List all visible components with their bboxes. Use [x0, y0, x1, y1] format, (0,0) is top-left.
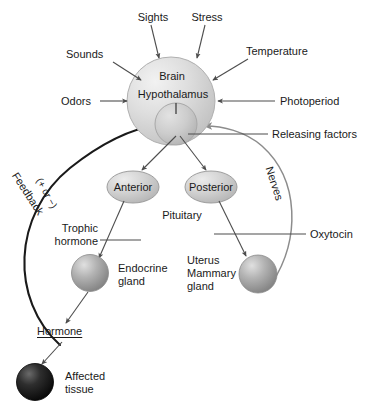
label-target-line2: Mammary [187, 267, 236, 280]
label-anterior: Anterior [104, 181, 162, 194]
label-endocrine-gland-line1: Endocrine [118, 262, 168, 275]
hormone-arrow [66, 292, 88, 323]
stress-arrow [197, 25, 205, 58]
hypothalamus-pituitary-diagram: Sights Stress Sounds Temperature Odors P… [0, 0, 367, 414]
label-temperature: Temperature [246, 45, 308, 58]
label-trophic-hormone-line2: hormone [34, 235, 98, 248]
temperature-arrow [213, 59, 248, 80]
affected-tissue-sphere [17, 364, 54, 401]
label-affected-tissue-line2: tissue [65, 383, 94, 396]
trophic-hormone-arrow [99, 201, 124, 258]
affected-tissue-arrow [42, 342, 62, 364]
posterior-arrow [180, 136, 206, 170]
label-target-line3: gland [187, 280, 214, 293]
uterus-mammary-gland-sphere [239, 255, 277, 293]
label-affected-tissue-line1: Affected [65, 370, 105, 383]
label-target-line1: Uterus [187, 254, 219, 267]
label-hypothalamus: Hypothalamus [130, 88, 216, 101]
sights-arrow [151, 25, 159, 58]
label-photoperiod: Photoperiod [280, 95, 339, 108]
label-pituitary: Pituitary [153, 209, 211, 222]
label-trophic-hormone-line1: Trophic [34, 222, 98, 235]
oxytocin-arrow [219, 201, 246, 256]
label-hormone: Hormone [37, 325, 82, 338]
sounds-arrow [113, 62, 141, 80]
label-odors: Odors [61, 95, 91, 108]
label-oxytocin: Oxytocin [310, 228, 353, 241]
endocrine-gland-sphere [72, 255, 109, 292]
label-sounds: Sounds [66, 48, 103, 61]
label-releasing-factors: Releasing factors [272, 128, 357, 141]
label-posterior: Posterior [182, 181, 240, 194]
label-endocrine-gland-line2: gland [118, 275, 145, 288]
label-stress: Stress [178, 11, 236, 24]
label-brain: Brain [143, 70, 201, 83]
label-sights: Sights [124, 11, 182, 24]
